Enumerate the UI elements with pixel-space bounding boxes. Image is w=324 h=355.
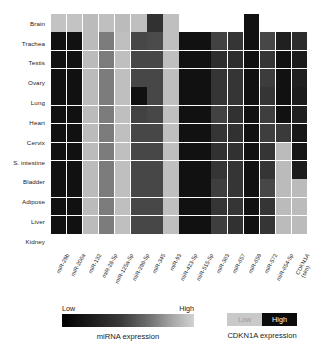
row-label: Adipose [0, 192, 48, 212]
heatmap-cell [211, 143, 226, 161]
heatmap-cell [195, 143, 210, 161]
heatmap-cell [276, 179, 291, 197]
heatmap-cell [163, 14, 178, 32]
heatmap-cell [292, 198, 307, 216]
heatmap-cell [115, 106, 130, 124]
heatmap-cell [99, 32, 114, 50]
heatmap-cell [228, 87, 243, 105]
heatmap-cell [163, 143, 178, 161]
heatmap-cell [147, 124, 162, 142]
heatmap-cell [228, 179, 243, 197]
heatmap-cell [131, 143, 146, 161]
heatmap-cell [51, 14, 66, 32]
heatmap-cell [195, 32, 210, 50]
heatmap-cell [292, 32, 307, 50]
heatmap-cell [131, 51, 146, 69]
heatmap-cell [179, 69, 194, 87]
heatmap-cell [131, 179, 146, 197]
cdkn1a-expression-legend: Low High CDKN1A expression [212, 313, 312, 340]
heatmap-cell [99, 143, 114, 161]
heatmap-cell [67, 69, 82, 87]
heatmap-cell [276, 216, 291, 234]
cdkn1a-legend-caption: CDKN1A expression [212, 331, 312, 340]
heatmap-cell [115, 14, 130, 32]
heatmap-cell [163, 32, 178, 50]
heatmap-cell [179, 124, 194, 142]
heatmap-cell [244, 161, 259, 179]
legend-area: Low High miRNA expression Low High CDKN1… [0, 300, 324, 355]
heatmap-cell [276, 69, 291, 87]
heatmap-cell [179, 198, 194, 216]
heatmap-cell [163, 69, 178, 87]
heatmap-cell [51, 106, 66, 124]
heatmap-cell [260, 69, 275, 87]
heatmap-cell [195, 124, 210, 142]
heatmap-cell [147, 106, 162, 124]
heatmap-cell [163, 179, 178, 197]
heatmap-cell [163, 87, 178, 105]
heatmap-cell [211, 87, 226, 105]
heatmap-cell [163, 161, 178, 179]
heatmap-cell [83, 32, 98, 50]
column-label: miR-29b [56, 253, 71, 275]
heatmap-cell [115, 216, 130, 234]
heatmap-cell [147, 179, 162, 197]
heatmap-cell [163, 106, 178, 124]
heatmap-cell [99, 124, 114, 142]
row-label: Heart [0, 113, 48, 133]
heatmap-cell [211, 69, 226, 87]
row-label: Brain [0, 14, 48, 34]
column-label: miR-299-5p [132, 253, 151, 282]
heatmap-cell [260, 32, 275, 50]
heatmap-cell [67, 216, 82, 234]
heatmap-cell [131, 216, 146, 234]
row-label-axis: BrainTracheaTestisOvaryLungHeartCervixS.… [0, 14, 48, 252]
heatmap-cell [83, 124, 98, 142]
heatmap-cell [99, 179, 114, 197]
heatmap-cell [244, 106, 259, 124]
heatmap-cell [276, 124, 291, 142]
mirna-legend-high-label: High [179, 304, 194, 313]
heatmap-cell [228, 69, 243, 87]
heatmap-cell [83, 216, 98, 234]
column-label: miR-345 [152, 253, 167, 275]
heatmap-cell [260, 106, 275, 124]
heatmap-cell [195, 51, 210, 69]
heatmap-cell [244, 14, 259, 32]
row-label: Ovary [0, 73, 48, 93]
heatmap-cell [147, 143, 162, 161]
heatmap-cell [67, 198, 82, 216]
heatmap-cell [83, 161, 98, 179]
heatmap-cell [51, 216, 66, 234]
column-label-axis: miR-29bmiR-206amiR-132miR-28-5pmiR-125a-… [51, 253, 307, 301]
heatmap-cell [195, 106, 210, 124]
heatmap-cell [244, 198, 259, 216]
heatmap-cell [211, 32, 226, 50]
heatmap-cell [260, 161, 275, 179]
heatmap-cell [276, 14, 291, 32]
row-label: S. intestine [0, 153, 48, 173]
heatmap-cell [147, 87, 162, 105]
heatmap-cell [51, 179, 66, 197]
heatmap-cell [260, 198, 275, 216]
heatmap-cell [260, 87, 275, 105]
heatmap-cell [99, 87, 114, 105]
heatmap-cell [276, 143, 291, 161]
row-label: Testis [0, 54, 48, 74]
heatmap-grid [51, 14, 307, 252]
heatmap-cell [228, 14, 243, 32]
column-label: miR-659 [248, 253, 263, 275]
heatmap-cell [244, 124, 259, 142]
mirna-scale-endpoints: Low High [62, 304, 194, 314]
heatmap-cell [228, 143, 243, 161]
heatmap-cell [228, 106, 243, 124]
heatmap-cell [244, 51, 259, 69]
heatmap-cell [115, 161, 130, 179]
heatmap-cell [292, 143, 307, 161]
heatmap-cell [115, 51, 130, 69]
heatmap-cell [228, 124, 243, 142]
heatmap-cell [115, 32, 130, 50]
heatmap-cell [211, 161, 226, 179]
heatmap-cell [51, 69, 66, 87]
heatmap-cell [292, 161, 307, 179]
